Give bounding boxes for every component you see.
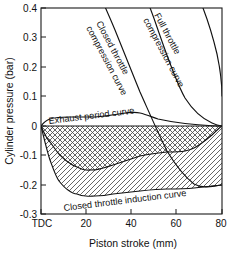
x-tick-60: 60 xyxy=(170,218,182,229)
x-tick-20: 20 xyxy=(80,218,92,229)
x-axis-title: Piston stroke (mm) xyxy=(89,237,177,249)
cylinder-pressure-chart: 0.4 0.3 0.2 0.1 0 -0.1 -0.2 -0.3 TDC 20 … xyxy=(0,0,233,255)
y-tick-m0-1: -0.1 xyxy=(20,150,38,161)
chart-figure: 0.4 0.3 0.2 0.1 0 -0.1 -0.2 -0.3 TDC 20 … xyxy=(0,0,233,255)
y-tick-0: 0 xyxy=(31,121,37,132)
x-tick-80: 80 xyxy=(215,218,227,229)
y-tick-0-2: 0.2 xyxy=(23,62,37,73)
y-tick-0-4: 0.4 xyxy=(23,3,37,14)
x-tick-tdc: TDC xyxy=(32,218,53,229)
x-tick-40: 40 xyxy=(125,218,137,229)
y-tick-0-1: 0.1 xyxy=(23,91,37,102)
filled-regions xyxy=(41,126,222,196)
y-axis-title: Cylinder pressure (bar) xyxy=(3,57,15,164)
y-tick-m0-2: -0.2 xyxy=(20,180,38,191)
y-tick-0-3: 0.3 xyxy=(23,32,37,43)
